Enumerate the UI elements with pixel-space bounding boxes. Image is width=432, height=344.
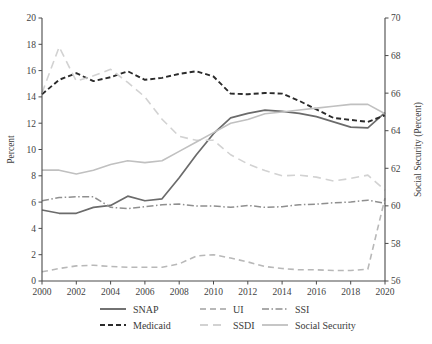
y-tick-label-right: 56: [391, 276, 401, 286]
legend-label-social-security: Social Security: [295, 320, 356, 331]
x-axis: 2000200220042006200820102012201420162018…: [33, 281, 395, 297]
series-line-snap: [42, 110, 385, 213]
chart-legend: SNAPUISSIMedicaidSSDISocial Security: [100, 304, 356, 331]
y-axis-left: 02468101214161820: [27, 13, 43, 286]
x-tick-label: 2016: [307, 287, 326, 297]
y-tick-label-left: 0: [31, 276, 36, 286]
y-tick-label-left: 20: [27, 13, 37, 23]
x-tick-label: 2004: [101, 287, 120, 297]
series-line-ui: [42, 198, 385, 272]
series-line-social-security: [42, 104, 385, 174]
series-line-medicaid: [42, 71, 385, 122]
axis-titles: PercentSocial Security (Percent): [6, 102, 424, 197]
y-tick-label-right: 66: [391, 89, 401, 99]
y-tick-label-left: 16: [27, 66, 37, 76]
x-tick-label: 2000: [33, 287, 52, 297]
y-axis-left-title: Percent: [6, 135, 16, 164]
x-tick-label: 2008: [170, 287, 189, 297]
y-tick-label-left: 12: [27, 119, 37, 129]
y-tick-label-left: 8: [31, 171, 36, 181]
y-tick-label-left: 6: [31, 198, 36, 208]
x-tick-label: 2014: [273, 287, 292, 297]
y-axis-right-title: Social Security (Percent): [413, 102, 424, 197]
legend-label-snap: SNAP: [133, 304, 159, 315]
x-tick-label: 2010: [204, 287, 223, 297]
x-tick-label: 2018: [341, 287, 360, 297]
legend-label-ui: UI: [233, 304, 244, 315]
x-tick-label: 2002: [67, 287, 86, 297]
y-tick-label-right: 68: [391, 51, 401, 61]
chart-figure: 02468101214161820 5658606264666870 20002…: [0, 0, 432, 344]
legend-label-ssi: SSI: [295, 304, 309, 315]
y-tick-label-left: 2: [31, 250, 36, 260]
x-tick-label: 2012: [238, 287, 257, 297]
y-axis-right: 5658606264666870: [385, 13, 401, 286]
series-line-ssdi: [42, 47, 385, 190]
legend-label-ssdi: SSDI: [233, 320, 255, 331]
x-tick-label: 2006: [135, 287, 154, 297]
x-tick-label: 2020: [376, 287, 395, 297]
legend-label-medicaid: Medicaid: [133, 320, 171, 331]
y-tick-label-right: 58: [391, 239, 401, 249]
y-tick-label-right: 62: [391, 164, 401, 174]
y-tick-label-right: 60: [391, 201, 401, 211]
chart-svg: 02468101214161820 5658606264666870 20002…: [0, 0, 432, 344]
y-tick-label-right: 70: [391, 13, 401, 23]
y-tick-label-left: 10: [27, 145, 37, 155]
y-tick-label-left: 4: [31, 224, 36, 234]
series-group: [42, 47, 385, 272]
y-tick-label-right: 64: [391, 126, 401, 136]
y-tick-label-left: 14: [27, 92, 37, 102]
y-tick-label-left: 18: [27, 40, 37, 50]
